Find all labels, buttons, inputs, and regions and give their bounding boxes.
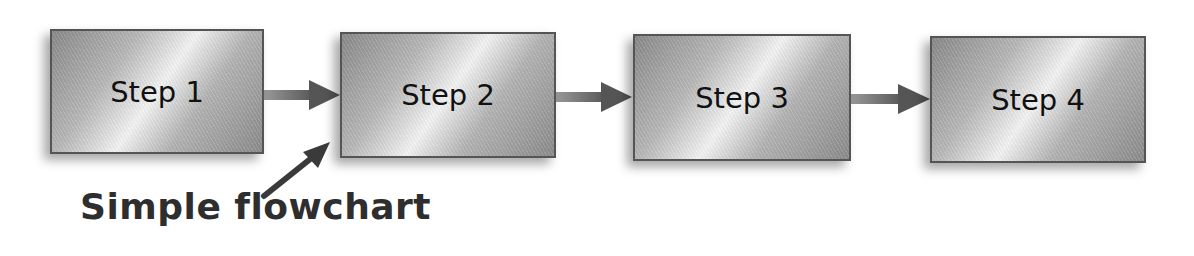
step-4-box: Step 4: [930, 36, 1146, 163]
caption: Simple flowchart: [80, 186, 431, 227]
arrow-step1-to-step2: [263, 80, 340, 110]
step-3-box: Step 3: [633, 34, 851, 161]
step-1-label: Step 1: [110, 75, 204, 109]
step-2-box: Step 2: [340, 32, 556, 158]
step-2-label: Step 2: [401, 78, 495, 112]
step-1-box: Step 1: [50, 29, 264, 154]
step-4-label: Step 4: [991, 83, 1085, 117]
arrow-step3-to-step4: [850, 84, 930, 114]
step-3-label: Step 3: [695, 81, 789, 115]
arrow-step2-to-step3: [555, 82, 632, 112]
